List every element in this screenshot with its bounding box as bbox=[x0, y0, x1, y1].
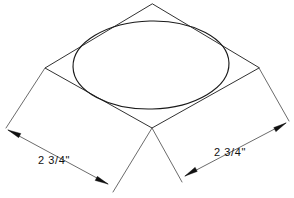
dimension-left-label: 2 3/4" bbox=[38, 154, 70, 166]
dimension-left-extension-line-upper bbox=[6, 68, 45, 128]
technical-drawing-canvas: 2 3/4" 2 3/4" bbox=[0, 0, 294, 198]
dimension-right-extension-line-lower bbox=[152, 128, 182, 182]
dimension-right: 2 3/4" bbox=[152, 68, 289, 182]
dimension-right-extension-line-upper bbox=[259, 68, 289, 121]
dimension-right-label: 2 3/4" bbox=[214, 146, 246, 158]
dimension-left-extension-line-lower bbox=[113, 128, 152, 192]
dimension-right-arrowhead-start bbox=[274, 123, 286, 132]
dimension-right-arrowhead-end bbox=[185, 167, 197, 176]
drawing-svg: 2 3/4" 2 3/4" bbox=[0, 0, 294, 198]
dimension-left-arrowhead-start bbox=[8, 130, 21, 138]
dimension-left-arrowhead-end bbox=[95, 176, 108, 184]
